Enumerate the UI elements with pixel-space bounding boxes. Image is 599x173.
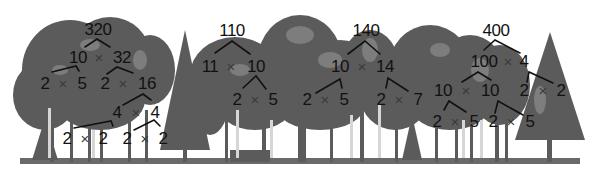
node-2: 2	[520, 82, 529, 99]
times-symbol: ×	[251, 92, 260, 107]
node-2: 2	[489, 113, 498, 130]
branch-140	[348, 41, 380, 54]
node-2: 2	[41, 75, 50, 92]
branch-14	[386, 78, 408, 91]
times-symbol: ×	[59, 76, 68, 91]
node-16: 16	[138, 75, 156, 92]
times-symbol: ×	[95, 50, 104, 65]
node-32: 32	[113, 49, 131, 66]
node-4: 4	[151, 104, 160, 121]
node-400: 400	[483, 22, 510, 39]
times-symbol: ×	[141, 131, 150, 146]
node-11: 11	[202, 58, 219, 75]
branch-4b	[134, 120, 160, 130]
branch-32	[107, 67, 133, 74]
node-2: 2	[63, 130, 72, 147]
times-symbol: ×	[507, 114, 516, 129]
times-symbol: ×	[81, 131, 90, 146]
node-5: 5	[269, 91, 278, 108]
node-2: 2	[123, 130, 132, 147]
node-2: 2	[233, 91, 242, 108]
node-14: 14	[376, 58, 394, 75]
node-140: 140	[353, 22, 380, 39]
times-symbol: ×	[451, 114, 460, 129]
times-symbol: ×	[395, 92, 404, 107]
branch-320	[85, 39, 110, 47]
node-5: 5	[470, 113, 479, 130]
times-symbol: ×	[119, 76, 128, 91]
node-2: 2	[557, 82, 566, 99]
node-2: 2	[433, 113, 442, 130]
node-10: 10	[69, 49, 87, 66]
node-10: 10	[434, 82, 452, 99]
times-symbol: ×	[462, 83, 471, 98]
node-10: 10	[331, 58, 349, 75]
node-10: 10	[481, 82, 499, 99]
branch-10-of-110	[243, 76, 266, 89]
factor-tree-forest-illustration: 320 10 × 32 2 × 5 2 × 16 4 × 4 2 × 2 2 ×…	[0, 0, 599, 173]
times-symbol: ×	[321, 92, 330, 107]
branch-4a	[74, 121, 113, 128]
node-4: 4	[520, 53, 529, 70]
branch-10	[52, 66, 79, 72]
times-symbol: ×	[539, 83, 548, 98]
node-2: 2	[377, 91, 386, 108]
node-110: 110	[219, 22, 245, 39]
node-2: 2	[303, 91, 312, 108]
times-symbol: ×	[504, 54, 513, 69]
node-5: 5	[340, 91, 349, 108]
node-7: 7	[414, 91, 423, 108]
times-symbol: ×	[132, 105, 141, 120]
node-10: 10	[247, 58, 265, 75]
node-5: 5	[78, 75, 87, 92]
branch-10a-of-100	[444, 101, 466, 112]
node-100: 100	[471, 53, 498, 70]
times-symbol: ×	[358, 59, 367, 74]
branch-110	[215, 41, 250, 54]
node-5: 5	[526, 113, 535, 130]
node-2: 2	[159, 130, 168, 147]
node-4: 4	[113, 104, 122, 121]
node-2: 2	[101, 75, 110, 92]
node-2: 2	[99, 130, 108, 147]
node-320: 320	[85, 21, 112, 38]
times-symbol: ×	[227, 59, 236, 74]
